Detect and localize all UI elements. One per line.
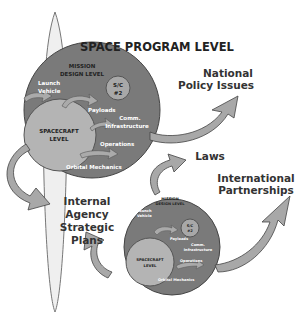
mission-design-label-2: DESIGN LEVEL xyxy=(60,71,105,77)
internal-agency-label-1: Internal xyxy=(64,195,111,207)
sc2-circle-small xyxy=(181,219,199,237)
launch-vehicle-label-2: Vehicle xyxy=(38,88,61,94)
diagram-canvas: SPACE PROGRAM LEVEL National Policy Issu… xyxy=(0,0,302,317)
sc2-label-1: S/C xyxy=(113,82,123,88)
title: SPACE PROGRAM LEVEL xyxy=(80,40,234,54)
arrow-to-laws xyxy=(150,154,186,195)
orbital-mechanics-label-small: Orbital Mechanics xyxy=(158,278,194,282)
payloads-label-small: Payloads xyxy=(170,237,188,241)
sc2-circle-large xyxy=(106,76,130,100)
internal-agency-label-3: Strategic xyxy=(60,221,114,233)
spacecraft-level-label-small-1: SPACECRAFT xyxy=(136,257,164,262)
launch-vehicle-label-small-2: Vehicle xyxy=(137,214,152,218)
operations-label: Operations xyxy=(100,141,135,148)
laws-label: Laws xyxy=(195,150,225,162)
sc2-label-2: #2 xyxy=(114,90,123,96)
spacecraft-level-label-1: SPACECRAFT xyxy=(39,128,79,134)
mission-design-label-1: MISSION xyxy=(69,63,96,69)
international-label-1: International xyxy=(217,172,294,184)
comm-label-2: Infrastructure xyxy=(105,123,149,129)
international-label-2: Partnerships xyxy=(218,184,294,196)
spacecraft-level-circle-large xyxy=(24,99,96,171)
comm-label-small-1: Comm. xyxy=(191,243,205,247)
sc2-label-small-2: #2 xyxy=(187,229,193,233)
spacecraft-level-label-2: LEVEL xyxy=(50,136,69,142)
arrow-to-international xyxy=(215,196,290,272)
mission-design-label-small-2: DESIGN LEVEL xyxy=(156,202,186,206)
arrow-to-national-policy xyxy=(150,96,238,143)
launch-vehicle-label-small-1: Launch xyxy=(137,209,152,213)
orbital-mechanics-label: Orbital Mechanics xyxy=(66,164,123,170)
internal-agency-label-4: Plans xyxy=(71,234,103,246)
operations-label-small: Operations xyxy=(180,259,202,263)
payloads-label: Payloads xyxy=(88,107,116,114)
national-policy-label-2: Policy Issues xyxy=(178,79,254,91)
national-policy-label-1: National xyxy=(203,67,253,79)
sc2-label-small-1: S/C xyxy=(187,224,194,228)
spacecraft-level-label-small-2: LEVEL xyxy=(144,263,158,268)
comm-label-small-2: Infrastructure xyxy=(184,248,213,252)
internal-agency-label-2: Agency xyxy=(65,208,108,220)
mission-design-label-small-1: MISSION xyxy=(161,197,178,201)
launch-vehicle-label-1: Launch xyxy=(38,80,60,86)
comm-label-1: Comm. xyxy=(119,115,140,121)
